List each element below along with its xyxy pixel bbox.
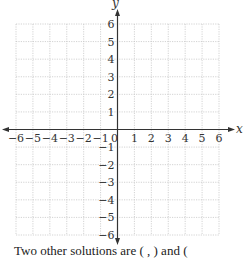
x-axis-label: x [236, 122, 243, 136]
x-tick-label: 4 [182, 132, 189, 145]
x-tick-label: −5 [25, 132, 41, 145]
x-tick-label: 1 [131, 132, 138, 145]
y-tick-label: −5 [98, 211, 114, 224]
x-axis-right-arrow-icon [228, 127, 235, 132]
y-tick-label: 1 [108, 106, 115, 119]
axes [2, 9, 235, 245]
y-tick-label: 6 [108, 18, 115, 31]
y-tick-label: −2 [98, 159, 114, 172]
x-tick-label: 2 [148, 132, 155, 145]
y-tick-label: −4 [98, 194, 114, 207]
y-axis-label: y [111, 0, 119, 10]
y-tick-label: −3 [98, 176, 114, 189]
y-tick-label: −1 [98, 141, 114, 154]
x-tick-label: 5 [199, 132, 206, 145]
x-tick-label: −6 [8, 132, 24, 145]
y-tick-label: −6 [98, 229, 114, 242]
question-caption: Two other solutions are ( , ) and ( [14, 243, 187, 259]
y-tick-label: 4 [108, 53, 115, 66]
x-tick-label: −3 [59, 132, 75, 145]
x-tick-label: −4 [42, 132, 58, 145]
x-tick-label: 3 [165, 132, 172, 145]
y-tick-label: 2 [108, 88, 115, 101]
y-tick-label: 5 [108, 36, 115, 49]
x-tick-label: 6 [216, 132, 223, 145]
x-tick-label: −2 [76, 132, 92, 145]
y-axis-up-arrow-icon [115, 9, 120, 16]
y-tick-label: 3 [108, 71, 115, 84]
